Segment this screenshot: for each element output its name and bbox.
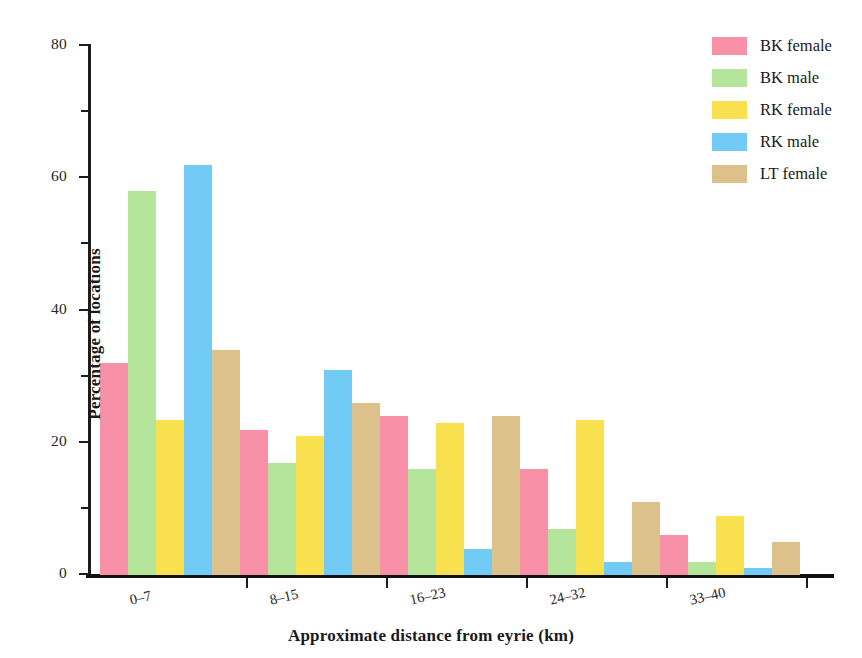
bar xyxy=(716,516,744,576)
bar-group xyxy=(380,46,520,575)
y-tick-label: 20 xyxy=(51,432,67,450)
legend-swatch xyxy=(712,101,747,119)
y-tick-major: 80 xyxy=(79,44,88,46)
bar xyxy=(240,430,268,575)
bar xyxy=(268,463,296,575)
x-tick-label: 16–23 xyxy=(408,584,447,609)
bar xyxy=(604,562,632,575)
bar xyxy=(212,350,240,575)
y-tick-label: 0 xyxy=(59,564,67,582)
legend-label: BK male xyxy=(760,68,819,88)
legend-label: RK female xyxy=(760,100,832,120)
x-tick-label: 33–40 xyxy=(688,584,727,609)
bar xyxy=(632,502,660,575)
bar xyxy=(548,529,576,575)
legend-label: BK female xyxy=(760,36,832,56)
bar xyxy=(128,191,156,575)
bar-chart: 020406080 Percentage of locations 0–78–1… xyxy=(0,0,862,658)
legend-swatch xyxy=(712,133,747,151)
bar xyxy=(184,165,212,575)
bar xyxy=(436,423,464,575)
legend-item[interactable]: BK male xyxy=(712,62,832,94)
bar xyxy=(772,542,800,575)
bar-group xyxy=(520,46,660,575)
y-tick-minor xyxy=(81,110,88,112)
y-tick-label: 60 xyxy=(51,167,67,185)
y-tick-label: 80 xyxy=(51,35,67,53)
x-tick xyxy=(806,578,808,588)
legend-item[interactable]: RK male xyxy=(712,126,832,158)
legend-label: LT female xyxy=(760,164,827,184)
legend-swatch xyxy=(712,69,747,87)
bar xyxy=(324,370,352,575)
x-tick xyxy=(666,578,668,588)
legend-item[interactable]: BK female xyxy=(712,30,832,62)
bar xyxy=(492,416,520,575)
bar xyxy=(576,420,604,575)
legend-item[interactable]: RK female xyxy=(712,94,832,126)
x-tick-label: 24–32 xyxy=(548,584,587,609)
bar-group xyxy=(240,46,380,575)
y-axis-title: Percentage of locations xyxy=(85,164,105,504)
y-tick-minor xyxy=(81,507,88,509)
legend-item[interactable]: LT female xyxy=(712,158,832,190)
x-tick-label: 8–15 xyxy=(268,585,300,608)
bar xyxy=(744,568,772,575)
bar xyxy=(660,535,688,575)
bar xyxy=(352,403,380,575)
x-tick xyxy=(526,578,528,588)
legend-label: RK male xyxy=(760,132,819,152)
bar xyxy=(296,436,324,575)
x-tick xyxy=(246,578,248,588)
plot-area: 020406080 Percentage of locations xyxy=(88,46,788,575)
x-tick-label: 0–7 xyxy=(128,587,153,608)
x-tick xyxy=(386,578,388,588)
x-axis-title: Approximate distance from eyrie (km) xyxy=(0,626,862,646)
bar xyxy=(464,549,492,575)
y-tick-label: 40 xyxy=(51,300,67,318)
legend: BK femaleBK maleRK femaleRK maleLT femal… xyxy=(712,30,832,190)
bar xyxy=(520,469,548,575)
bar xyxy=(688,562,716,575)
legend-swatch xyxy=(712,165,747,183)
bar xyxy=(380,416,408,575)
bar xyxy=(156,420,184,575)
legend-swatch xyxy=(712,37,747,55)
y-tick-major: 0 xyxy=(79,573,88,575)
bar-group xyxy=(100,46,240,575)
bar xyxy=(408,469,436,575)
